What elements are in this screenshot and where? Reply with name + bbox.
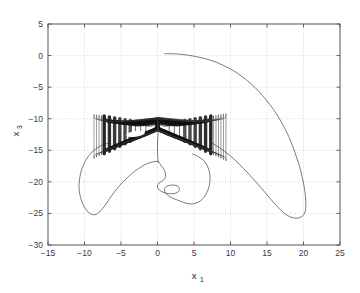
x-axis-label-subscript: 1: [200, 276, 204, 283]
y-tick-label: −5: [33, 82, 43, 92]
x-tick-label: 10: [226, 248, 236, 258]
y-tick-label: −25: [29, 208, 44, 218]
y-tick-label: −10: [29, 114, 44, 124]
x-tick-label: 15: [262, 248, 272, 258]
y-tick-label: −30: [29, 240, 44, 250]
chart-canvas: −15−10−50510152025−30−25−20−15−10−505 x …: [0, 0, 360, 293]
figure-phase-portrait: −15−10−50510152025−30−25−20−15−10−505 x …: [0, 0, 360, 293]
y-tick-label: −20: [29, 177, 44, 187]
x-tick-label: 0: [155, 248, 160, 258]
y-tick-label: 5: [38, 19, 43, 29]
x-axis-label: x: [192, 270, 197, 281]
y-tick-label: −15: [29, 145, 44, 155]
x-tick-label: 25: [335, 248, 345, 258]
x-tick-label: −10: [77, 248, 92, 258]
x-tick-label: 20: [299, 248, 309, 258]
x-tick-label: −5: [116, 248, 126, 258]
y-tick-label: 0: [38, 51, 43, 61]
x-tick-label: 5: [192, 248, 197, 258]
y-axis-label-subscript: 3: [16, 125, 23, 129]
y-axis-label: x: [10, 131, 21, 136]
